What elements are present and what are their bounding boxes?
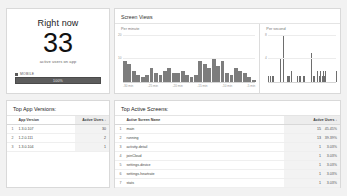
- chart-bar: [123, 61, 127, 82]
- row-rank: 3: [7, 143, 16, 152]
- chart-bar: [221, 61, 225, 82]
- row-active-users-percent: 39.39%: [321, 136, 337, 140]
- chart-bar: [230, 75, 234, 82]
- x-tick-label: -10 min: [222, 84, 232, 88]
- table-row[interactable]: 1main1545.45%: [115, 125, 340, 134]
- table-row[interactable]: 2running1339.39%: [115, 134, 340, 143]
- row-active-users: 1: [75, 143, 109, 152]
- chart-bar: [136, 75, 140, 82]
- row-rank: 1: [7, 125, 16, 134]
- sort-arrow-icon: ↓: [104, 118, 106, 122]
- screen-views-panel: Screen Views Per minute 2010 -30 min-25 …: [114, 8, 341, 94]
- active-users-count: 33: [7, 29, 109, 58]
- row-rank: 5: [115, 161, 124, 170]
- chart-bar: [243, 73, 247, 82]
- top-app-versions-body: 11.3.0.1073021.2.0.111231.3.0.1041: [7, 125, 109, 152]
- row-active-users: 2: [75, 134, 109, 143]
- top-app-versions-table: App Version Active Users ↓ 11.3.0.107302…: [7, 116, 109, 152]
- row-screen-name: settings-device: [124, 161, 285, 170]
- per-second-label: Per second: [260, 24, 340, 31]
- row-rank: 7: [115, 179, 124, 188]
- chart-bar: [159, 75, 163, 82]
- chart-bar: [280, 59, 281, 82]
- row-screen-name: running: [124, 134, 285, 143]
- row-active-users: 1339.39%: [284, 134, 340, 143]
- chart-bar: [207, 68, 211, 82]
- per-minute-label: Per minute: [115, 24, 259, 31]
- row-active-users: 13.03%: [284, 161, 340, 170]
- active-users-caption: active users on app: [7, 59, 109, 64]
- row-app-version: 1.2.0.111: [16, 134, 76, 143]
- rank-header: [7, 116, 16, 125]
- per-minute-x-labels: -30 min-25 min-20 min-15 min-10 min-5 mi…: [123, 84, 255, 88]
- screen-name-header[interactable]: Active Screen Name: [124, 116, 285, 125]
- top-active-screens-table: Active Screen Name Active Users ↓ 1main1…: [115, 116, 340, 188]
- table-header-row: App Version Active Users ↓: [7, 116, 109, 125]
- app-version-header[interactable]: App Version: [16, 116, 76, 125]
- chart-bar: [181, 71, 185, 83]
- chart-bar: [145, 75, 149, 82]
- active-users-header-label: Active Users: [82, 118, 103, 122]
- chart-bar: [176, 73, 180, 82]
- y-tick-label: 8: [265, 33, 267, 37]
- per-minute-chart[interactable]: Per minute 2010 -30 min-25 min-20 min-15…: [115, 24, 260, 94]
- sort-arrow-icon: ↓: [335, 118, 337, 122]
- top-active-screens-title: Top Active Screens:: [115, 101, 340, 116]
- row-active-users-percent: 3.03%: [321, 154, 337, 158]
- table-row[interactable]: 4joinCloud13.03%: [115, 152, 340, 161]
- chart-bar: [127, 64, 131, 82]
- table-row[interactable]: 7stats13.03%: [115, 179, 340, 188]
- chart-bar: [163, 71, 167, 83]
- gridline: 4: [268, 58, 336, 59]
- device-share-bar: 100%: [15, 77, 101, 84]
- chart-bar: [198, 61, 202, 82]
- per-second-bars: [268, 36, 336, 82]
- row-rank: 2: [115, 134, 124, 143]
- top-active-screens-panel: Top Active Screens: Active Screen Name A…: [114, 100, 341, 188]
- per-second-plot: 84: [268, 36, 336, 82]
- per-second-chart[interactable]: Per second 84: [260, 24, 340, 94]
- row-active-users-count: 1: [313, 154, 321, 158]
- chart-bar: [238, 71, 242, 83]
- chart-bar: [185, 75, 189, 82]
- table-header-row: Active Screen Name Active Users ↓: [115, 116, 340, 125]
- table-row[interactable]: 11.3.0.10730: [7, 125, 109, 134]
- table-row[interactable]: 3activity-detail13.03%: [115, 143, 340, 152]
- row-active-users: 13.03%: [284, 152, 340, 161]
- active-users-header[interactable]: Active Users ↓: [75, 116, 109, 125]
- gridline: 20: [123, 35, 255, 36]
- row-active-users: 13.03%: [284, 170, 340, 179]
- row-active-users-count: 1: [313, 172, 321, 176]
- right-now-title: Right now: [7, 18, 109, 28]
- active-users-header-label: Active Users: [313, 118, 334, 122]
- row-screen-name: activity-detail: [124, 143, 285, 152]
- table-row[interactable]: 31.3.0.1041: [7, 143, 109, 152]
- legend-label-mobile: MOBILE: [20, 72, 34, 76]
- table-row[interactable]: 21.2.0.1112: [7, 134, 109, 143]
- chart-bar: [132, 71, 136, 83]
- row-active-users-count: 1: [313, 145, 321, 149]
- per-second-axis: [268, 82, 336, 83]
- chart-bar: [234, 68, 238, 82]
- chart-bar: [325, 71, 326, 83]
- table-row[interactable]: 6settings-heartrate13.03%: [115, 170, 340, 179]
- device-share-value: 100%: [16, 79, 100, 83]
- per-minute-axis: [123, 82, 255, 83]
- row-screen-name: settings-heartrate: [124, 170, 285, 179]
- chart-bar: [225, 73, 229, 82]
- row-active-users-percent: 3.03%: [321, 181, 337, 185]
- gridline: 10: [123, 58, 255, 59]
- x-tick-label: -5 min: [247, 84, 256, 88]
- screen-views-body: Per minute 2010 -30 min-25 min-20 min-15…: [115, 24, 340, 94]
- y-tick-label: 20: [118, 33, 122, 37]
- chart-bar: [167, 68, 171, 82]
- gridline: 8: [268, 35, 336, 36]
- row-screen-name: joinCloud: [124, 152, 285, 161]
- active-users-header[interactable]: Active Users ↓: [284, 116, 340, 125]
- table-row[interactable]: 5settings-device13.03%: [115, 161, 340, 170]
- chart-bar: [291, 71, 292, 83]
- row-active-users-count: 13: [313, 136, 321, 140]
- x-tick-label: -25 min: [148, 84, 158, 88]
- row-active-users-count: 1: [313, 181, 321, 185]
- top-app-versions-panel: Top App Versions: App Version Active Use…: [6, 100, 110, 188]
